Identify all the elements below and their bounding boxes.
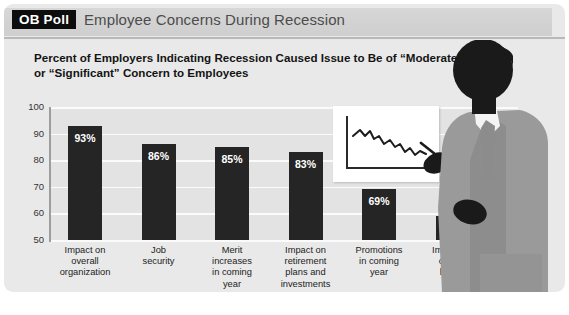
bar-value-label: 85% <box>215 154 249 165</box>
x-axis-label-line: organization <box>49 267 121 278</box>
ob-poll-badge: OB Poll <box>12 10 76 29</box>
chart-panel: OB Poll Employee Concerns During Recessi… <box>4 4 565 292</box>
ob-poll-badge-label: OB Poll <box>19 13 69 27</box>
bar: 86% <box>142 144 176 240</box>
bar: 85% <box>215 147 249 240</box>
x-axis-label: Meritincreasesin comingyear <box>196 245 268 290</box>
y-axis-tick-label: 90 <box>14 129 44 139</box>
x-axis-label: Impact onoverallorganization <box>49 245 121 279</box>
bar-value-label: 83% <box>289 159 323 170</box>
bar-value-label: 93% <box>68 133 102 144</box>
y-axis-line <box>49 107 51 242</box>
y-axis-tick-label: 100 <box>14 102 44 112</box>
bar-value-label: 86% <box>142 151 176 162</box>
businessman-silhouette-icon <box>320 40 565 292</box>
presentation-illustration <box>320 40 565 292</box>
y-axis-tick-label: 70 <box>14 182 44 192</box>
x-axis-label: Jobsecurity <box>123 245 195 267</box>
page-title: Employee Concerns During Recession <box>84 10 345 29</box>
x-axis-label-line: overall <box>49 256 121 267</box>
x-axis-label-line: year <box>196 279 268 290</box>
x-axis-label-line: in coming <box>196 267 268 278</box>
header-divider <box>4 37 565 39</box>
x-axis-label-line: Impact on <box>49 245 121 256</box>
y-axis-tick-label: 50 <box>14 235 44 245</box>
bar: 93% <box>68 126 102 240</box>
x-axis-label-line: increases <box>196 256 268 267</box>
y-axis-tick-label: 80 <box>14 155 44 165</box>
bar: 83% <box>289 152 323 240</box>
x-axis-label-line: Job <box>123 245 195 256</box>
x-axis-label-line: security <box>123 256 195 267</box>
y-axis-tick-label: 60 <box>14 208 44 218</box>
poll-infographic: OB Poll Employee Concerns During Recessi… <box>0 0 569 315</box>
x-axis-label-line: Merit <box>196 245 268 256</box>
